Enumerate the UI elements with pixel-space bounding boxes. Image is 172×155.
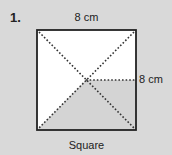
square-diagram: [0, 0, 172, 155]
